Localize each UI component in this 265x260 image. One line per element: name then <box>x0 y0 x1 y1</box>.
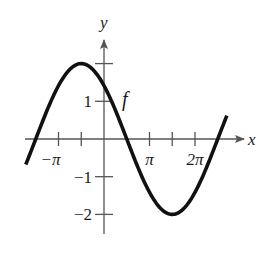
y-tick-label: −1 <box>74 168 92 187</box>
y-axis-label: y <box>98 13 108 32</box>
y-tick-label: 1 <box>84 92 93 111</box>
x-tick-label: 2π <box>186 150 204 169</box>
x-tick-label: π <box>145 150 154 169</box>
x-tick-label: −π <box>41 150 61 169</box>
x-axis-label: x <box>247 130 256 149</box>
y-tick-label: −2 <box>74 205 92 224</box>
chart: −ππ2π 1−1−2 x y f <box>0 0 265 260</box>
function-label: f <box>122 88 130 111</box>
